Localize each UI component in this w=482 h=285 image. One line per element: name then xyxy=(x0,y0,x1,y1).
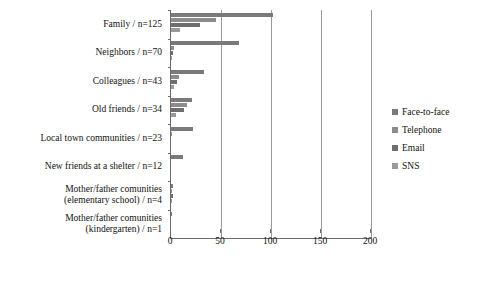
bar xyxy=(171,85,174,89)
category-label-line: Neighbors / n=70 xyxy=(0,47,162,58)
x-axis-tick-label: 150 xyxy=(305,236,335,246)
bar-group xyxy=(171,153,371,182)
category-label-line: Mother/father comunities xyxy=(0,184,162,195)
x-axis-tick-label: 100 xyxy=(255,236,285,246)
category-label: Family / n=125 xyxy=(0,19,162,30)
bar-group xyxy=(171,181,371,210)
category-label-line: (elementary school) / n=4 xyxy=(0,195,162,206)
bar xyxy=(171,199,172,203)
bar xyxy=(171,212,172,216)
bar xyxy=(171,75,179,79)
bar xyxy=(171,155,183,159)
category-label: Colleagues / n=43 xyxy=(0,76,162,87)
bar xyxy=(171,41,239,45)
bar xyxy=(171,132,172,136)
bar xyxy=(171,194,173,198)
category-tick xyxy=(168,181,171,182)
category-label: Old friends / n=34 xyxy=(0,104,162,115)
legend-item[interactable]: Email xyxy=(392,143,449,153)
bar xyxy=(171,51,173,55)
x-axis-tick-label: 200 xyxy=(355,236,385,246)
bar-chart: Family / n=125Neighbors / n=70Colleagues… xyxy=(0,0,482,285)
bar xyxy=(171,108,184,112)
x-axis-tick xyxy=(220,229,221,233)
bar xyxy=(171,113,176,117)
category-label-line: Local town communities / n=23 xyxy=(0,133,162,144)
chart-legend: Face-to-faceTelephoneEmailSNS xyxy=(392,107,449,179)
category-tick xyxy=(168,10,171,11)
category-label-line: (kindergarten) / n=1 xyxy=(0,224,162,235)
bar xyxy=(171,18,216,22)
bar xyxy=(171,13,273,17)
category-tick xyxy=(168,153,171,154)
category-label: New friends at a shelter / n=12 xyxy=(0,161,162,172)
legend-label: SNS xyxy=(402,161,419,171)
legend-item[interactable]: SNS xyxy=(392,161,449,171)
x-axis-tick-label: 0 xyxy=(155,236,185,246)
x-axis-tick xyxy=(270,229,271,233)
category-label: Neighbors / n=70 xyxy=(0,47,162,58)
category-label-line: Mother/father comunities xyxy=(0,213,162,224)
category-label-line: Family / n=125 xyxy=(0,19,162,30)
category-label-line: Old friends / n=34 xyxy=(0,104,162,115)
x-axis-tick-label: 50 xyxy=(205,236,235,246)
legend-swatch-icon xyxy=(392,109,398,115)
bar-group xyxy=(171,124,371,153)
bar xyxy=(171,103,187,107)
x-axis-tick xyxy=(170,229,171,233)
legend-label: Telephone xyxy=(402,125,441,135)
legend-swatch-icon xyxy=(392,127,398,133)
category-label: Mother/father comunities(kindergarten) /… xyxy=(0,213,162,235)
legend-item[interactable]: Telephone xyxy=(392,125,449,135)
bar xyxy=(171,184,173,188)
x-axis-tick xyxy=(320,229,321,233)
category-tick xyxy=(168,67,171,68)
bar-group xyxy=(171,39,371,68)
bar xyxy=(171,98,192,102)
bar-group xyxy=(171,10,371,39)
bar-group xyxy=(171,67,371,96)
bar xyxy=(171,56,172,60)
category-axis-labels: Family / n=125Neighbors / n=70Colleagues… xyxy=(0,10,168,238)
category-label: Mother/father comunities(elementary scho… xyxy=(0,184,162,206)
bar xyxy=(171,70,204,74)
category-tick xyxy=(168,39,171,40)
category-tick xyxy=(168,124,171,125)
category-tick xyxy=(168,96,171,97)
legend-item[interactable]: Face-to-face xyxy=(392,107,449,117)
bar-group xyxy=(171,96,371,125)
category-label-line: New friends at a shelter / n=12 xyxy=(0,161,162,172)
bar xyxy=(171,46,174,50)
bar xyxy=(171,127,193,131)
bar xyxy=(171,80,177,84)
gridline xyxy=(371,10,372,238)
bar xyxy=(171,189,172,193)
legend-swatch-icon xyxy=(392,145,398,151)
plot-area xyxy=(170,10,371,239)
bar-group xyxy=(171,210,371,239)
bar xyxy=(171,28,180,32)
category-label-line: Colleagues / n=43 xyxy=(0,76,162,87)
legend-swatch-icon xyxy=(392,163,398,169)
category-label: Local town communities / n=23 xyxy=(0,133,162,144)
category-tick xyxy=(168,210,171,211)
bar xyxy=(171,23,200,27)
legend-label: Face-to-face xyxy=(402,107,449,117)
legend-label: Email xyxy=(402,143,425,153)
x-axis-tick xyxy=(370,229,371,233)
